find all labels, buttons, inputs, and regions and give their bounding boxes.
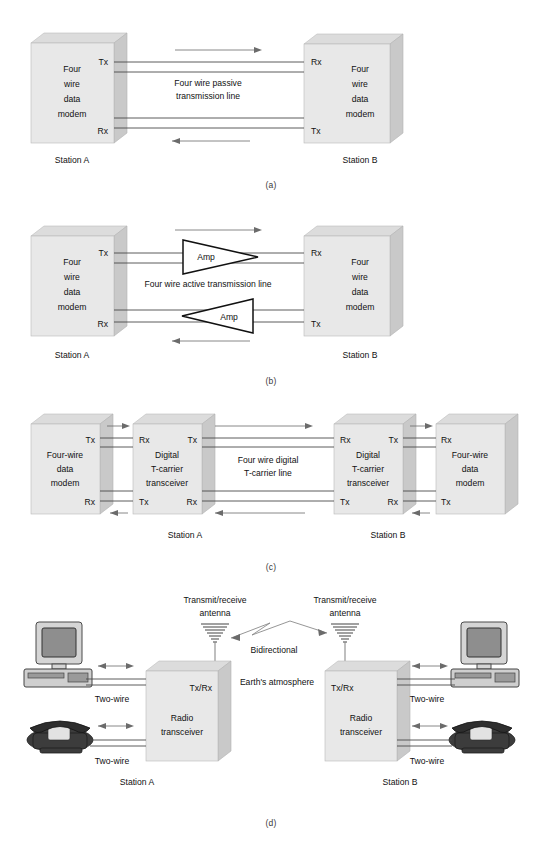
panel-a-left-modem-box: Four wire data modem Tx Rx bbox=[31, 33, 127, 143]
panel-d-antenna-right-label-2: antenna bbox=[329, 608, 360, 618]
panel-b-reverse-arrow bbox=[172, 338, 250, 344]
panel-d-antenna-left-label-1: Transmit/receive bbox=[183, 595, 246, 605]
panel-b-right-line2: wire bbox=[351, 272, 368, 282]
panel-c-wires-seg2: Four wire digital T-carrier line bbox=[202, 423, 334, 516]
panel-b-four-wire-active: Four wire data modem Tx Rx Four wire dat… bbox=[0, 198, 542, 393]
panel-c-t-carrier: Four-wire data modem Tx Rx Digital T-car… bbox=[0, 390, 542, 580]
panel-c-box2-line2: T-carrier bbox=[151, 464, 183, 474]
panel-d-caption: (d) bbox=[0, 818, 542, 828]
panel-c-box1-modem: Four-wire data modem Tx Rx bbox=[31, 414, 113, 514]
panel-b-amp-bottom: Amp bbox=[182, 299, 253, 333]
panel-c-box2-line3: transceiver bbox=[146, 478, 188, 488]
panel-c-box3-port-tx: Tx bbox=[388, 435, 398, 445]
panel-a-right-port-rx: Rx bbox=[311, 57, 322, 67]
panel-c-box2-port-tx: Tx bbox=[187, 435, 197, 445]
panel-b-right-line1: Four bbox=[351, 257, 369, 267]
panel-b-left-port-tx: Tx bbox=[98, 248, 108, 258]
panel-d-left-line1: Radio bbox=[171, 713, 194, 723]
panel-c-box3-transceiver: Digital T-carrier transceiver Rx Tx Tx R… bbox=[334, 414, 416, 514]
panel-c-station-a: Station A bbox=[168, 530, 203, 540]
panel-d-left-port-txrx: Tx/Rx bbox=[190, 683, 213, 693]
panel-d-station-b: Station B bbox=[383, 777, 418, 787]
panel-a-right-line2: wire bbox=[351, 79, 368, 89]
computer-icon-left bbox=[24, 622, 92, 687]
panel-d-right-line2: transceiver bbox=[340, 727, 382, 737]
panel-b-right-port-rx: Rx bbox=[311, 248, 322, 258]
panel-a-right-port-tx: Tx bbox=[311, 126, 321, 136]
panel-c-box3-line2: T-carrier bbox=[352, 464, 384, 474]
panel-a-right-line3: data bbox=[352, 94, 369, 104]
panel-c-box1-line2: data bbox=[57, 464, 74, 474]
panel-c-box3-port-tx-bottom: Tx bbox=[340, 497, 350, 507]
panel-a-center-label-1: Four wire passive bbox=[174, 78, 242, 88]
panel-b-caption: (b) bbox=[0, 376, 542, 386]
panel-b-left-modem-box: Four wire data modem Tx Rx bbox=[31, 226, 127, 336]
panel-b-amp-top-label: Amp bbox=[197, 252, 215, 262]
panel-a-left-port-rx: Rx bbox=[97, 126, 108, 136]
panel-a-caption: (a) bbox=[0, 180, 542, 190]
panel-c-box3-port-rx: Rx bbox=[340, 435, 351, 445]
panel-b-amp-bottom-label: Amp bbox=[220, 312, 238, 322]
panel-b-amp-top: Amp bbox=[183, 240, 258, 274]
panel-c-caption: (c) bbox=[0, 562, 542, 572]
panel-c-box2-port-tx-bottom: Tx bbox=[139, 497, 149, 507]
panel-b-center-label: Four wire active transmission line bbox=[144, 279, 271, 289]
panel-d-antenna-right-label-1: Transmit/receive bbox=[313, 595, 376, 605]
panel-d-antenna-left-label-2: antenna bbox=[199, 608, 230, 618]
panel-b-right-modem-box: Four wire data modem Rx Tx bbox=[304, 226, 403, 336]
panel-c-box4-modem: Four-wire data modem Rx Tx bbox=[436, 414, 518, 514]
panel-b-svg: Four wire data modem Tx Rx Four wire dat… bbox=[0, 198, 542, 393]
panel-c-box2-transceiver: Digital T-carrier transceiver Rx Tx Tx R… bbox=[133, 414, 215, 514]
panel-b-right-line4: modem bbox=[346, 302, 375, 312]
panel-d-left-phone-wires: Two-wire bbox=[90, 723, 146, 766]
panel-b-station-b: Station B bbox=[343, 350, 378, 360]
panel-a-four-wire-passive: Four wire data modem Tx Rx Four wire dat… bbox=[0, 0, 542, 200]
panel-b-right-line3: data bbox=[352, 287, 369, 297]
panel-a-left-line1: Four bbox=[63, 64, 81, 74]
panel-c-box4-line2: data bbox=[462, 464, 479, 474]
panel-b-left-line4: modem bbox=[58, 302, 87, 312]
panel-c-box2-port-rx: Rx bbox=[139, 435, 150, 445]
panel-c-box4-port-tx: Tx bbox=[441, 497, 451, 507]
panel-c-box4-line1: Four-wire bbox=[452, 450, 489, 460]
panel-a-left-port-tx: Tx bbox=[98, 57, 108, 67]
panel-a-left-line2: wire bbox=[63, 79, 80, 89]
panel-d-svg: Transmit/receive antenna Transmit/receiv… bbox=[0, 578, 542, 842]
panel-c-box4-line3: modem bbox=[456, 478, 485, 488]
panel-b-forward-arrow bbox=[175, 227, 262, 233]
panel-d-station-a: Station A bbox=[120, 777, 155, 787]
computer-icon-right bbox=[451, 622, 519, 687]
panel-a-right-modem-box: Four wire data modem Rx Tx bbox=[304, 34, 403, 143]
panel-d-bidirectional-label: Bidirectional bbox=[251, 645, 298, 655]
panel-a-right-line1: Four bbox=[351, 64, 369, 74]
panel-d-left-computer-wires: Two-wire bbox=[86, 663, 146, 704]
panel-b-station-a: Station A bbox=[55, 350, 90, 360]
panel-d-radio-link: Transmit/receive antenna Transmit/receiv… bbox=[0, 578, 542, 842]
panel-c-center-label-1: Four wire digital bbox=[238, 455, 299, 465]
panel-b-left-port-rx: Rx bbox=[97, 319, 108, 329]
panel-c-box2-port-rx-bottom: Rx bbox=[186, 497, 197, 507]
telephone-icon-left bbox=[27, 721, 93, 753]
panel-b-right-port-tx: Tx bbox=[311, 319, 321, 329]
panel-d-right-computer-twowire-label: Two-wire bbox=[410, 694, 445, 704]
panel-d-left-phone-twowire-label: Two-wire bbox=[95, 756, 130, 766]
panel-c-box2-line1: Digital bbox=[155, 450, 179, 460]
panel-a-right-line4: modem bbox=[346, 109, 375, 119]
panel-b-left-line1: Four bbox=[63, 257, 81, 267]
panel-c-box4-port-rx: Rx bbox=[441, 435, 452, 445]
panel-a-station-a: Station A bbox=[55, 155, 90, 165]
panel-d-left-line2: transceiver bbox=[161, 727, 203, 737]
panel-a-svg: Four wire data modem Tx Rx Four wire dat… bbox=[0, 0, 542, 200]
panel-c-center-label-2: T-carrier line bbox=[244, 468, 292, 478]
panel-a-left-line3: data bbox=[64, 94, 81, 104]
panel-c-box1-port-rx: Rx bbox=[84, 497, 95, 507]
panel-d-left-transceiver-box: Tx/Rx Radio transceiver bbox=[146, 661, 231, 761]
panel-c-box3-port-rx-bottom: Rx bbox=[387, 497, 398, 507]
panel-a-center-label-2: transmission line bbox=[176, 91, 240, 101]
panel-c-box1-line3: modem bbox=[51, 478, 80, 488]
panel-a-left-line4: modem bbox=[58, 109, 87, 119]
panel-c-box1-line1: Four-wire bbox=[47, 450, 84, 460]
panel-a-reverse-arrow bbox=[172, 138, 250, 144]
panel-c-station-b: Station B bbox=[371, 530, 406, 540]
panel-c-box3-line1: Digital bbox=[356, 450, 380, 460]
